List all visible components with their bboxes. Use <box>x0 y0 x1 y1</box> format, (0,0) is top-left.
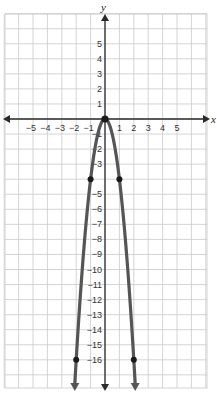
y-tick-label: −7 <box>92 219 102 229</box>
parabola-graph: −5−4−3−2−11234554321−1−2−3−5−6−7−8−9−10−… <box>0 0 217 396</box>
y-tick-label: −14 <box>87 325 102 335</box>
data-point <box>131 357 137 363</box>
x-tick-label: −2 <box>69 123 79 133</box>
axes <box>3 14 210 391</box>
y-tick-label: −6 <box>92 204 102 214</box>
x-tick-label: 2 <box>131 123 136 133</box>
y-axis-label: y <box>100 1 106 13</box>
x-tick-label: −3 <box>55 123 65 133</box>
y-tick-label: 3 <box>97 69 102 79</box>
x-tick-label: 1 <box>117 123 122 133</box>
data-point <box>101 115 108 122</box>
y-tick-label: 5 <box>97 39 102 49</box>
x-tick-label: 4 <box>160 123 165 133</box>
data-point <box>116 176 122 182</box>
y-tick-label: 2 <box>97 84 102 94</box>
y-tick-label: −13 <box>87 310 102 320</box>
x-axis-label: x <box>210 113 216 125</box>
y-tick-label: 4 <box>97 54 102 64</box>
data-point <box>88 176 94 182</box>
x-tick-label: −4 <box>40 123 50 133</box>
y-tick-label: −15 <box>87 340 102 350</box>
y-tick-label: −16 <box>87 355 102 365</box>
x-tick-label: 5 <box>174 123 179 133</box>
y-tick-label: −8 <box>92 234 102 244</box>
tick-labels: −5−4−3−2−11234554321−1−2−3−5−6−7−8−9−10−… <box>26 39 180 365</box>
y-tick-label: −10 <box>87 265 102 275</box>
y-tick-label: 1 <box>97 99 102 109</box>
y-tick-label: −11 <box>87 280 102 290</box>
y-tick-label: −12 <box>87 295 102 305</box>
y-tick-label: −9 <box>92 249 102 259</box>
x-tick-label: −5 <box>26 123 36 133</box>
data-point <box>73 357 79 363</box>
y-tick-label: −5 <box>92 189 102 199</box>
x-tick-label: 3 <box>146 123 151 133</box>
